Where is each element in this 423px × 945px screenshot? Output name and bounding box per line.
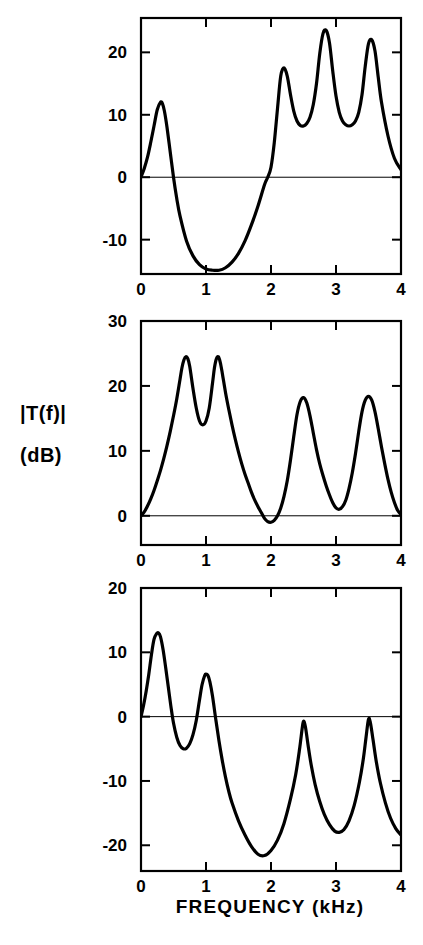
y-tick-label-top-3: -10 <box>102 231 127 250</box>
y-tick-label-middle-3: 0 <box>118 507 127 526</box>
x-axis-label-frequency: FREQUENCY (kHz) <box>176 896 365 917</box>
data-curve-bottom <box>141 633 401 856</box>
x-tick-label-middle-0: 0 <box>136 551 145 570</box>
shared-axis-labels: |T(f)| (dB) FREQUENCY (kHz) <box>20 402 364 917</box>
x-tick-label-bottom-2: 2 <box>266 877 275 896</box>
x-tick-label-middle-1: 1 <box>201 551 210 570</box>
y-tick-label-top-2: 0 <box>118 168 127 187</box>
y-tick-label-top-1: 10 <box>108 106 127 125</box>
y-tick-label-bottom-4: -20 <box>102 836 127 855</box>
x-tick-label-bottom-4: 4 <box>396 877 406 896</box>
y-tick-label-middle-2: 10 <box>108 442 127 461</box>
x-tick-label-top-3: 3 <box>331 280 340 299</box>
y-tick-label-bottom-0: 20 <box>108 579 127 598</box>
x-tick-label-middle-3: 3 <box>331 551 340 570</box>
panel-bottom-plot: 20100-10-2001234 <box>102 579 406 896</box>
data-curve-top <box>141 30 401 271</box>
y-tick-label-bottom-3: -10 <box>102 772 127 791</box>
plot-frame-top <box>141 18 401 274</box>
x-tick-label-middle-4: 4 <box>396 551 406 570</box>
y-tick-label-middle-1: 20 <box>108 377 127 396</box>
x-tick-label-top-4: 4 <box>396 280 406 299</box>
x-tick-label-bottom-3: 3 <box>331 877 340 896</box>
x-tick-label-bottom-0: 0 <box>136 877 145 896</box>
y-tick-label-bottom-2: 0 <box>118 708 127 727</box>
plot-frame-bottom <box>141 588 401 871</box>
figure-container: 20100-1001234 302010001234 20100-10-2001… <box>0 0 423 945</box>
panel-middle-plot: 302010001234 <box>108 312 406 570</box>
y-tick-label-bottom-1: 10 <box>108 643 127 662</box>
x-tick-label-middle-2: 2 <box>266 551 275 570</box>
frequency-response-figure: 20100-1001234 302010001234 20100-10-2001… <box>0 0 423 945</box>
y-tick-label-top-0: 20 <box>108 43 127 62</box>
y-axis-label-magnitude: |T(f)| <box>20 402 66 424</box>
plot-frame-middle <box>141 321 401 545</box>
x-tick-label-top-2: 2 <box>266 280 275 299</box>
panel-top-plot: 20100-1001234 <box>102 18 406 299</box>
x-tick-label-bottom-1: 1 <box>201 877 210 896</box>
x-tick-label-top-1: 1 <box>201 280 210 299</box>
data-curve-middle <box>141 356 401 522</box>
y-tick-label-middle-0: 30 <box>108 312 127 331</box>
y-axis-label-units: (dB) <box>20 444 62 466</box>
x-tick-label-top-0: 0 <box>136 280 145 299</box>
